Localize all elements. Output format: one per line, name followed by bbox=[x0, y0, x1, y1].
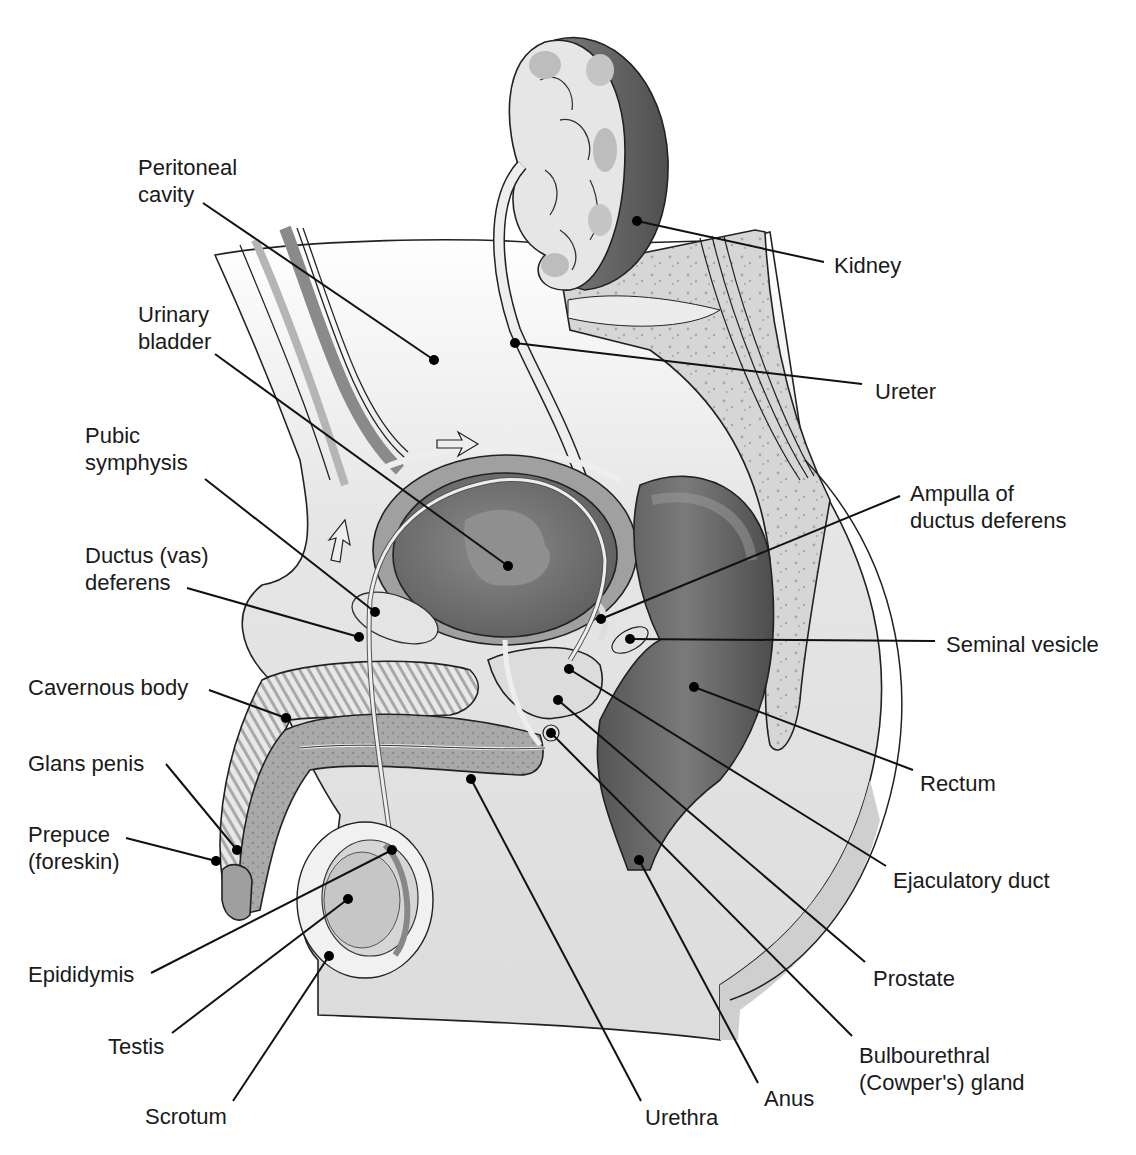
anchor-dot bbox=[596, 614, 606, 624]
anchor-dot bbox=[211, 856, 221, 866]
label-text: Seminal vesicle bbox=[946, 632, 1099, 657]
anchor-dot bbox=[343, 894, 353, 904]
label-text: Prostate bbox=[873, 966, 955, 991]
label-text: Scrotum bbox=[145, 1104, 227, 1129]
label-line: deferens bbox=[85, 570, 171, 595]
label-text: Ejaculatory duct bbox=[893, 868, 1050, 893]
label-line: Ductus (vas) bbox=[85, 543, 208, 568]
label-line: Cavernous body bbox=[28, 675, 188, 700]
label-line: symphysis bbox=[85, 450, 188, 475]
scrotum-testis bbox=[297, 822, 433, 978]
anchor-dot bbox=[564, 664, 574, 674]
label-line: Ureter bbox=[875, 379, 936, 404]
label-text: Cavernous body bbox=[28, 675, 188, 700]
label-text: Anus bbox=[764, 1086, 814, 1111]
label-text: Glans penis bbox=[28, 751, 144, 776]
label-text: Rectum bbox=[920, 771, 996, 796]
label-line: Scrotum bbox=[145, 1104, 227, 1129]
label-line: Testis bbox=[108, 1034, 164, 1059]
anchor-dot bbox=[625, 634, 635, 644]
label-text: Urinarybladder bbox=[138, 302, 211, 354]
label-text: Pubicsymphysis bbox=[85, 423, 188, 475]
anchor-dot bbox=[370, 607, 380, 617]
label-line: Kidney bbox=[834, 253, 901, 278]
anchor-dot bbox=[324, 951, 334, 961]
label-text: Ductus (vas)deferens bbox=[85, 543, 208, 595]
label-text: Testis bbox=[108, 1034, 164, 1059]
anchor-dot bbox=[466, 774, 476, 784]
anchor-dot bbox=[429, 355, 439, 365]
label-text: Urethra bbox=[645, 1105, 719, 1130]
anchor-dot bbox=[632, 216, 642, 226]
label-line: cavity bbox=[138, 182, 194, 207]
anchor-dot bbox=[553, 695, 563, 705]
label-line: Seminal vesicle bbox=[946, 632, 1099, 657]
label-line: Anus bbox=[764, 1086, 814, 1111]
anchor-dot bbox=[232, 845, 242, 855]
label-line: Rectum bbox=[920, 771, 996, 796]
anchor-dot bbox=[510, 338, 520, 348]
label-prepuce-foreskin: Prepuce(foreskin) bbox=[28, 822, 221, 874]
label-line: bladder bbox=[138, 329, 211, 354]
label-text: Prepuce(foreskin) bbox=[28, 822, 120, 874]
anchor-dot bbox=[281, 713, 291, 723]
label-line: (foreskin) bbox=[28, 849, 120, 874]
label-line: Ejaculatory duct bbox=[893, 868, 1050, 893]
anchor-dot bbox=[354, 632, 364, 642]
label-line: Glans penis bbox=[28, 751, 144, 776]
anatomy-diagram: PeritonealcavityUrinarybladderPubicsymph… bbox=[0, 0, 1136, 1155]
label-line: Bulbourethral bbox=[859, 1043, 990, 1068]
label-line: Prostate bbox=[873, 966, 955, 991]
anchor-dot bbox=[546, 728, 556, 738]
label-line: ductus deferens bbox=[910, 508, 1067, 533]
leader-line bbox=[233, 956, 329, 1101]
label-text: Epididymis bbox=[28, 962, 134, 987]
label-line: Urinary bbox=[138, 302, 209, 327]
label-line: (Cowper's) gland bbox=[859, 1070, 1025, 1095]
anchor-dot bbox=[387, 845, 397, 855]
label-scrotum: Scrotum bbox=[145, 951, 334, 1129]
label-line: Pubic bbox=[85, 423, 140, 448]
label-line: Ampulla of bbox=[910, 481, 1015, 506]
label-line: Prepuce bbox=[28, 822, 110, 847]
label-text: Ampulla ofductus deferens bbox=[910, 481, 1067, 533]
label-line: Peritoneal bbox=[138, 155, 237, 180]
label-text: Ureter bbox=[875, 379, 936, 404]
label-text: Kidney bbox=[834, 253, 901, 278]
leader-line bbox=[126, 838, 216, 861]
anchor-dot bbox=[689, 682, 699, 692]
anchor-dot bbox=[503, 561, 513, 571]
label-line: Urethra bbox=[645, 1105, 719, 1130]
label-text: Peritonealcavity bbox=[138, 155, 237, 207]
anchor-dot bbox=[634, 855, 644, 865]
label-text: Bulbourethral(Cowper's) gland bbox=[859, 1043, 1025, 1095]
label-line: Epididymis bbox=[28, 962, 134, 987]
